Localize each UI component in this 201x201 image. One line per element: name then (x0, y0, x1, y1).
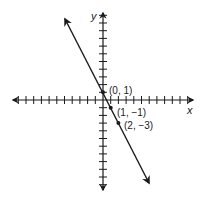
point-label-0-1: (0, 1) (109, 85, 132, 96)
coordinate-graph: x y (0, 1) (1, −1) (2, −3) (0, 0, 201, 201)
point-1-neg1 (109, 106, 113, 110)
x-axis-label: x (186, 104, 193, 116)
point-0-1 (101, 90, 105, 94)
point-label-1-neg1: (1, −1) (117, 107, 146, 118)
y-axis-label: y (90, 10, 98, 22)
point-label-2-neg3: (2, −3) (124, 120, 153, 131)
point-2-neg3 (116, 121, 120, 125)
graph-line (65, 19, 149, 183)
